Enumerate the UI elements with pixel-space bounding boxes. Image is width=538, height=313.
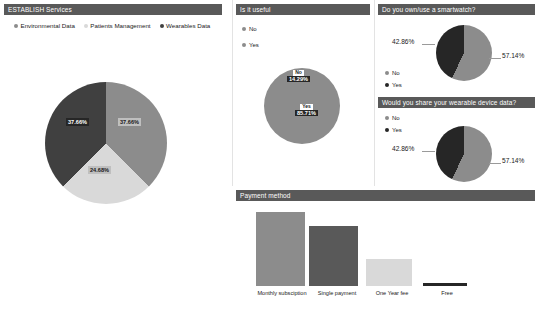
share-legend-item-no[interactable]: No — [385, 115, 400, 121]
pie-slice-label-patients: 24.68% — [88, 166, 111, 174]
establish-services-panel: ESTABLISH Services Environmental Data Pa… — [0, 0, 232, 313]
legend-item-wearables-data[interactable]: Wearables Data — [160, 22, 211, 29]
share-wearable-data-pie-chart[interactable] — [436, 126, 492, 182]
is-it-useful-title: Is it useful — [236, 4, 370, 15]
share-wearable-data-title: Would you share your wearable device dat… — [378, 97, 535, 108]
legend-label: Yes — [392, 82, 402, 88]
establish-services-pie-chart[interactable] — [45, 82, 167, 204]
share-legend-item-yes[interactable]: Yes — [385, 127, 402, 133]
legend-label: No — [392, 70, 400, 76]
share-label-no: 42.86% — [392, 145, 414, 152]
useful-slice-label-no: No 14.29% — [287, 70, 310, 82]
establish-services-title: ESTABLISH Services — [4, 4, 222, 15]
smartwatch-pie-chart[interactable] — [436, 25, 492, 81]
legend-dot-icon — [84, 24, 88, 28]
smartwatch-label-no: 42.86% — [392, 38, 414, 45]
legend-label: No — [249, 26, 257, 32]
bar-free[interactable] — [423, 283, 467, 286]
legend-label: Patients Management — [90, 22, 150, 29]
legend-dot-icon — [242, 43, 246, 47]
bar-label-free: Free — [415, 290, 479, 296]
legend-dot-icon — [385, 71, 389, 75]
legend-label: Yes — [249, 42, 259, 48]
smartwatch-leader-right — [489, 58, 501, 59]
pie-slice-label-environmental: 37.66% — [118, 118, 141, 126]
share-wearable-data-panel: Would you share your wearable device dat… — [375, 93, 538, 186]
bar-monthly-subsciption[interactable] — [256, 212, 305, 286]
legend-dot-icon — [385, 116, 389, 120]
payment-method-bar-chart[interactable]: Monthly subsciption Single payment One Y… — [233, 186, 538, 313]
bar-one-year-fee[interactable] — [366, 259, 412, 286]
legend-label: No — [392, 115, 400, 121]
legend-dot-icon — [14, 24, 18, 28]
share-leader-left — [422, 151, 435, 152]
share-leader-right — [489, 163, 501, 164]
establish-services-legend: Environmental Data Patients Management W… — [14, 22, 210, 29]
smartwatch-title: Do you own/use a smartwatch? — [378, 4, 535, 15]
bar-single-payment[interactable] — [309, 226, 358, 286]
legend-dot-icon — [242, 27, 246, 31]
legend-dot-icon — [160, 24, 164, 28]
smartwatch-legend-item-no[interactable]: No — [385, 70, 400, 76]
payment-method-panel: Payment method Monthly subsciption Singl… — [233, 186, 538, 313]
useful-slice-label-yes: Yes 85.71% — [295, 104, 318, 116]
smartwatch-panel: Do you own/use a smartwatch? 42.86% 57.1… — [375, 0, 538, 93]
legend-label: Wearables Data — [166, 22, 210, 29]
smartwatch-label-yes: 57.14% — [502, 52, 524, 59]
pie-slice-label-wearables: 37.66% — [66, 118, 89, 126]
legend-label: Environmental Data — [21, 22, 75, 29]
useful-legend-item-no[interactable]: No — [242, 26, 257, 32]
is-it-useful-panel: Is it useful No Yes No 14.29% Yes 85.71% — [233, 0, 374, 186]
smartwatch-leader-left — [422, 44, 435, 45]
share-label-yes: 57.14% — [502, 157, 524, 164]
legend-dot-icon — [385, 83, 389, 87]
legend-item-patients-management[interactable]: Patients Management — [84, 22, 151, 29]
smartwatch-legend-item-yes[interactable]: Yes — [385, 82, 402, 88]
legend-item-environmental-data[interactable]: Environmental Data — [14, 22, 75, 29]
legend-dot-icon — [385, 128, 389, 132]
useful-slice-value: 85.71% — [295, 110, 318, 116]
legend-label: Yes — [392, 127, 402, 133]
useful-slice-value: 14.29% — [287, 76, 310, 82]
useful-legend-item-yes[interactable]: Yes — [242, 42, 259, 48]
